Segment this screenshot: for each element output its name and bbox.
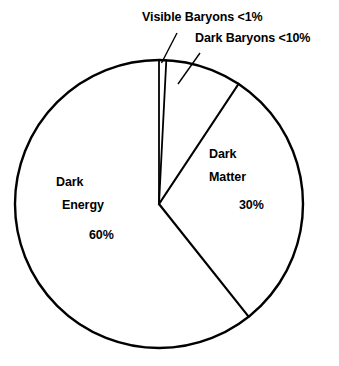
slice-label-dark-energy-line2: Energy (62, 199, 104, 212)
slice-value-dark-energy: 60% (89, 229, 114, 242)
slice-label-dark-energy-line1: Dark (56, 176, 83, 189)
pie-chart-figure: Visible Baryons <1% Dark Baryons <10% Da… (0, 0, 339, 366)
pie-chart-graphic (0, 0, 339, 366)
slice-label-dark-matter-line2: Matter (209, 171, 246, 184)
leader-line-visible-baryons (162, 33, 178, 63)
slice-label-dark-matter-line1: Dark (209, 148, 236, 161)
slice-value-dark-matter: 30% (239, 199, 264, 212)
slice-label-visible-baryons: Visible Baryons <1% (142, 11, 263, 24)
slice-label-dark-baryons: Dark Baryons <10% (195, 32, 310, 45)
